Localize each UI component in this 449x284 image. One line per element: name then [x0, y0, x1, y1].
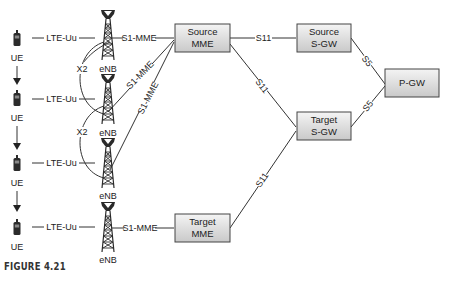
s1-mme-label: S1-MME	[122, 223, 157, 233]
enb-label: eNB	[99, 128, 117, 138]
svg-text:S-GW: S-GW	[311, 38, 337, 49]
cell-tower-icon	[101, 202, 115, 252]
cell-tower-icon	[101, 138, 115, 188]
phone-icon	[14, 90, 21, 106]
arrow-down-icon	[13, 78, 21, 85]
figure-caption: FIGURE 4.21	[4, 261, 66, 272]
arrow-down-icon	[13, 143, 21, 150]
ue-label: UE	[11, 53, 24, 63]
enb-1: eNB	[99, 10, 117, 74]
svg-text:Target: Target	[189, 216, 216, 227]
target-sgw-box: Target S-GW	[297, 112, 351, 140]
svg-text:S-GW: S-GW	[311, 126, 337, 137]
phone-icon	[14, 155, 21, 171]
s11-label: S11	[256, 33, 271, 43]
svg-text:P-GW: P-GW	[399, 77, 425, 88]
lte-uu-label: LTE-Uu	[46, 94, 76, 104]
svg-text:Source: Source	[187, 26, 217, 37]
svg-text:MME: MME	[191, 38, 213, 49]
source-mme-box: Source MME	[175, 24, 230, 52]
ue-label: UE	[11, 113, 24, 123]
handover-diagram: UE UE UE UE LTE-Uu LTE-Uu LTE-Uu LTE-Uu …	[0, 0, 449, 284]
source-sgw-box: Source S-GW	[297, 24, 351, 52]
enb-label: eNB	[99, 191, 117, 201]
cell-tower-icon	[101, 74, 115, 124]
s1-mme-label: S1-MME	[136, 80, 161, 116]
s11-label: S11	[254, 171, 271, 189]
ue-movement-arrows	[13, 66, 21, 212]
arrow-down-icon	[13, 205, 21, 212]
s1-mme-label: S1-MME	[121, 33, 156, 43]
ue-4: UE	[11, 219, 24, 252]
ue-label: UE	[11, 178, 24, 188]
cell-tower-icon	[101, 10, 115, 60]
ue-3: UE	[11, 155, 24, 188]
enb-3: eNB	[99, 138, 117, 201]
lte-uu-label: LTE-Uu	[46, 33, 76, 43]
enb-label: eNB	[99, 255, 117, 265]
lte-uu-label: LTE-Uu	[46, 158, 76, 168]
ue-1: UE	[11, 30, 24, 63]
ue-label: UE	[11, 242, 24, 252]
target-mme-box: Target MME	[175, 214, 230, 242]
x2-label: X2	[76, 64, 87, 74]
phone-icon	[14, 30, 21, 46]
lte-uu-label: LTE-Uu	[46, 222, 76, 232]
svg-text:Target: Target	[311, 114, 338, 125]
x2-label: X2	[76, 127, 87, 137]
svg-text:Source: Source	[309, 26, 339, 37]
pgw-box: P-GW	[385, 69, 439, 97]
svg-text:MME: MME	[191, 228, 213, 239]
enb-4: eNB	[99, 202, 117, 265]
phone-icon	[14, 219, 21, 235]
ue-2: UE	[11, 90, 24, 123]
enb-label: eNB	[99, 64, 117, 74]
